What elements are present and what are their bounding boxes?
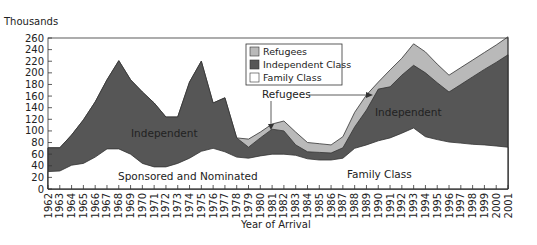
x-tick-label: 1973: [172, 193, 183, 218]
x-tick-label: 1962: [43, 193, 54, 218]
y-tick-label: 160: [25, 91, 44, 102]
x-tick-label: 1989: [361, 193, 372, 218]
x-tick-label: 1990: [373, 193, 384, 218]
x-tick-label: 1974: [184, 193, 195, 218]
x-tick-label: 1987: [337, 193, 348, 218]
x-tick-label: 2001: [503, 193, 514, 218]
x-tick-label: 1980: [255, 193, 266, 218]
x-tick-label: 1994: [420, 193, 431, 218]
x-tick-label: 1991: [385, 193, 396, 218]
legend-swatch-refugees: [250, 47, 259, 56]
x-axis: 1962196319641965196619671968196919701971…: [43, 185, 514, 218]
annotation-sponsored-nominated: Sponsored and Nominated: [118, 170, 258, 182]
chart-canvas: Thousands 020406080100120140160180200220…: [0, 0, 537, 245]
x-tick-label: 1997: [455, 193, 466, 218]
annotation-refugees: Refugees: [262, 88, 311, 100]
x-tick-label: 1998: [467, 193, 478, 218]
x-tick-label: 1984: [302, 193, 313, 218]
x-tick-label: 1977: [219, 193, 230, 218]
x-tick-label: 1964: [66, 193, 77, 218]
y-tick-label: 100: [25, 125, 44, 136]
x-tick-label: 1993: [408, 193, 419, 218]
legend-swatch-independent: [250, 60, 259, 69]
x-axis-title: Year of Arrival: [240, 219, 311, 230]
annotation-independent-late: Independent: [375, 106, 442, 118]
x-tick-label: 1969: [125, 193, 136, 218]
y-tick-label: 40: [31, 160, 44, 171]
x-tick-label: 1981: [267, 193, 278, 218]
y-tick-label: 220: [25, 56, 44, 67]
x-tick-label: 1996: [444, 193, 455, 218]
y-tick-label: 60: [31, 149, 44, 160]
legend-label-refugees: Refugees: [263, 46, 307, 57]
x-tick-label: 1971: [149, 193, 160, 218]
y-axis-unit-label: Thousands: [3, 16, 58, 27]
y-tick-label: 180: [25, 79, 44, 90]
x-tick-label: 1968: [113, 193, 124, 218]
x-tick-label: 1985: [314, 193, 325, 218]
x-tick-label: 1963: [54, 193, 65, 218]
x-tick-label: 1999: [479, 193, 490, 218]
x-tick-label: 1982: [278, 193, 289, 218]
y-tick-label: 120: [25, 114, 44, 125]
y-tick-label: 20: [31, 172, 44, 183]
x-tick-label: 1988: [349, 193, 360, 218]
x-tick-label: 2000: [491, 193, 502, 218]
x-tick-label: 1970: [137, 193, 148, 218]
x-tick-label: 1965: [78, 193, 89, 218]
x-tick-label: 1967: [101, 193, 112, 218]
x-tick-label: 1992: [396, 193, 407, 218]
x-tick-label: 1978: [231, 193, 242, 218]
annotation-independent-early: Independent: [131, 127, 198, 139]
y-tick-label: 140: [25, 102, 44, 113]
x-tick-label: 1972: [160, 193, 171, 218]
x-tick-label: 1975: [196, 193, 207, 218]
y-tick-label: 0: [38, 184, 44, 195]
y-tick-label: 260: [25, 33, 44, 44]
x-tick-label: 1986: [326, 193, 337, 218]
x-tick-label: 1983: [290, 193, 301, 218]
y-tick-label: 240: [25, 44, 44, 55]
x-tick-label: 1995: [432, 193, 443, 218]
y-tick-label: 200: [25, 67, 44, 78]
legend: Refugees Independent Class Family Class: [246, 44, 351, 85]
y-tick-label: 80: [31, 137, 44, 148]
x-tick-label: 1966: [90, 193, 101, 218]
legend-swatch-family: [250, 73, 259, 82]
x-tick-label: 1976: [208, 193, 219, 218]
legend-label-independent: Independent Class: [263, 59, 351, 70]
immigration-stacked-area-chart: Thousands 020406080100120140160180200220…: [0, 0, 537, 245]
x-tick-label: 1979: [243, 193, 254, 218]
legend-label-family: Family Class: [263, 72, 322, 83]
annotation-family-class: Family Class: [347, 168, 412, 180]
